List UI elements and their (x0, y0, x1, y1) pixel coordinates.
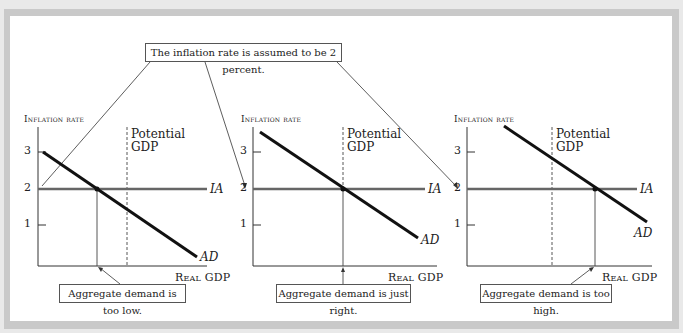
chart-1 (38, 127, 207, 284)
x-axis-title-2: Real GDP (388, 271, 443, 284)
ad-label-2: AD (421, 233, 439, 247)
leader-line-1 (42, 62, 150, 186)
ia-label-3: IA (640, 182, 653, 196)
potential-label-2b: GDP (347, 141, 374, 154)
potential-label-3b: GDP (556, 141, 583, 154)
ad-label-3: AD (634, 226, 652, 240)
tick-1-3: 1 (454, 217, 461, 230)
x-axis-title-3: Real GDP (602, 271, 657, 284)
ia-label-2: IA (428, 182, 441, 196)
top-callout: The inflation rate is assumed to be 2 pe… (145, 43, 342, 62)
tick-2-3: 2 (454, 181, 461, 194)
ia-label-1: IA (210, 182, 223, 196)
tick-1-2: 1 (240, 217, 247, 230)
chart-2 (253, 127, 437, 287)
caption-just-right: Aggregate demand is just right. (276, 284, 411, 303)
tick-3-2: 3 (240, 144, 247, 157)
leader-line-2 (205, 62, 245, 186)
ad-line (43, 152, 197, 257)
tick-2-1: 2 (24, 181, 31, 194)
tick-2-2: 2 (240, 181, 247, 194)
y-axis-title-2: Inflation rate (241, 114, 301, 124)
leader-line-3 (337, 62, 456, 186)
caption-too-high: Aggregate demand is too high. (480, 284, 612, 303)
tick-1-1: 1 (24, 217, 31, 230)
x-axis-title-1: Real GDP (175, 271, 230, 284)
ad-label-1: AD (200, 250, 218, 264)
caption-too-low: Aggregate demand is too low. (59, 284, 186, 303)
tick-3-1: 3 (24, 144, 31, 157)
y-axis-title-3: Inflation rate (454, 114, 514, 124)
y-axis-title-1: Inflation rate (24, 114, 84, 124)
potential-label-1b: GDP (131, 141, 158, 154)
tick-3-3: 3 (454, 144, 461, 157)
